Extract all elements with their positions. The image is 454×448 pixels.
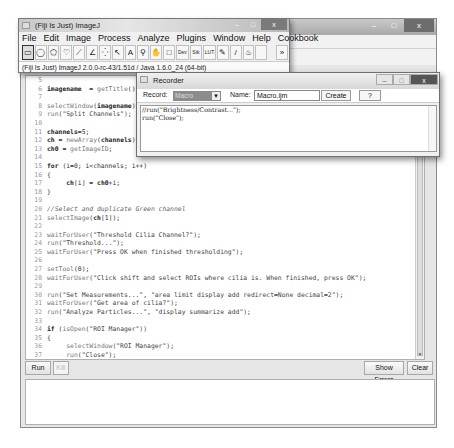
chevron-down-icon[interactable]: ▼ [211, 91, 221, 101]
fiji-main-window: (Fiji Is Just) ImageJ – □ x File Edit Im… [18, 18, 290, 73]
menu-edit[interactable]: Edit [44, 32, 60, 44]
recorder-textarea[interactable]: //run("Brightness/Contrast..."); run("Cl… [140, 105, 437, 152]
code-token: for [47, 162, 59, 170]
minimize-icon[interactable]: – [376, 74, 393, 85]
recorder-controls: Record: Macro ▼ Name: Macro.ijm Create ? [137, 89, 439, 103]
create-button[interactable]: Create [321, 90, 351, 101]
lut-menu-icon[interactable]: LUT [203, 45, 216, 60]
hand-tool-icon[interactable]: ✋ [150, 45, 162, 60]
code-line: 28waitForUser("Click shift and select RO… [26, 274, 424, 283]
minimize-icon[interactable]: – [229, 19, 245, 30]
code-token: run [47, 308, 59, 316]
code-token: ch [66, 179, 74, 187]
output-console[interactable] [25, 379, 435, 425]
recorder-titlebar[interactable]: Recorder – □ x [137, 73, 439, 89]
code-line: 24run("Threshold..."); [26, 239, 424, 248]
maximize-icon[interactable]: □ [245, 19, 261, 30]
code-token: if [47, 325, 55, 333]
line-number: 6 [26, 85, 42, 94]
show-errors-button[interactable]: Show Errors [364, 361, 404, 375]
code-token: ("Split Channels"); [59, 110, 132, 118]
menu-file[interactable]: File [22, 32, 37, 44]
line-number: 18 [26, 188, 42, 197]
code-token: ("Set Measurements...", "area limit disp… [59, 291, 344, 299]
maximize-icon[interactable]: □ [393, 74, 410, 85]
code-token: ("Close"); [78, 351, 116, 359]
menu-image[interactable]: Image [66, 32, 91, 44]
clear-button[interactable]: Clear [407, 361, 433, 375]
magnifier-tool-icon[interactable]: ⚲ [137, 45, 149, 60]
wand-tool-icon[interactable]: ↖ [112, 45, 124, 60]
help-button[interactable]: ? [359, 90, 381, 101]
pencil-tool-icon[interactable]: ✎ [217, 45, 229, 60]
recorder-line: //run("Brightness/Contrast..."); [141, 106, 436, 114]
code-token: { [47, 334, 51, 342]
fiji-title: (Fiji Is Just) ImageJ [35, 21, 100, 30]
line-number: 26 [26, 256, 42, 265]
code-token: ("Threshold..."); [59, 239, 124, 247]
code-line: 15for (i=0; i<channels; i++) [26, 162, 424, 171]
code-line: 21selectImage(ch[1]); [26, 214, 424, 223]
code-token: = [82, 85, 97, 93]
polygon-tool-icon[interactable]: ⬠ [48, 45, 60, 60]
developer-menu-icon[interactable]: Dev [176, 45, 189, 60]
more-tools-icon[interactable]: » [276, 45, 288, 60]
maximize-icon[interactable]: □ [384, 19, 404, 32]
code-line: 30run("Set Measurements...", "area limit… [26, 291, 424, 300]
flood-fill-tool-icon[interactable]: ♨ [243, 45, 255, 60]
menu-analyze[interactable]: Analyze [138, 32, 170, 44]
line-number: 28 [26, 274, 42, 283]
scrollbar-thumb[interactable] [417, 126, 423, 356]
run-button[interactable]: Run [25, 361, 51, 375]
code-token: = [59, 145, 71, 153]
code-token: ; [109, 145, 113, 153]
code-line: 36 selectWindow("ROI Manager"); [26, 342, 424, 351]
brush-tool-icon[interactable]: / [230, 45, 242, 60]
code-token: [i] = [74, 179, 97, 187]
line-number: 32 [26, 308, 42, 317]
recorder-scrollbar[interactable] [428, 106, 436, 151]
point-tool-icon[interactable]: ⁛ [99, 45, 111, 60]
line-number: 5 [26, 76, 42, 85]
color-picker-tool-icon[interactable]: □ [163, 45, 175, 60]
close-icon[interactable]: x [410, 74, 438, 85]
menu-process[interactable]: Process [98, 32, 131, 44]
oval-tool-icon[interactable]: ◯ [35, 45, 47, 60]
line-number: 8 [26, 102, 42, 111]
code-line: 25waitForUser("Press OK when finished th… [26, 248, 424, 257]
line-number: 16 [26, 171, 42, 180]
stacks-menu-icon[interactable]: Stk [190, 45, 203, 60]
line-tool-icon[interactable]: ⟋ [73, 45, 85, 60]
text-tool-icon[interactable]: A [125, 45, 137, 60]
line-number: 21 [26, 214, 42, 223]
minimize-icon[interactable]: – [364, 19, 384, 32]
menu-help[interactable]: Help [252, 32, 271, 44]
close-icon[interactable]: x [261, 19, 287, 30]
close-icon[interactable]: x [404, 19, 434, 32]
macro-name-input[interactable]: Macro.ijm [254, 90, 320, 101]
code-token: ("Press OK when finished thresholding"); [89, 248, 243, 256]
recorder-title: Recorder [153, 76, 184, 85]
line-number: 19 [26, 196, 42, 205]
menu-window[interactable]: Window [213, 32, 245, 44]
record-mode-select[interactable]: Macro [173, 91, 211, 101]
menu-cookbook[interactable]: Cookbook [278, 32, 319, 44]
code-token: waitForUser [47, 299, 89, 307]
kill-button[interactable]: Kill [53, 361, 69, 375]
line-number: 14 [26, 153, 42, 162]
fiji-titlebar[interactable]: (Fiji Is Just) ImageJ – □ x [19, 19, 289, 32]
empty-slot-icon[interactable] [255, 45, 267, 60]
line-number: 35 [26, 334, 42, 343]
fiji-menubar: File Edit Image Process Analyze Plugins … [19, 32, 289, 44]
angle-tool-icon[interactable]: ∠ [86, 45, 98, 60]
code-token: ("ROI Manager")) [86, 325, 148, 333]
code-token: run [47, 110, 59, 118]
rectangle-tool-icon[interactable]: ▭ [22, 45, 34, 60]
code-line: 27setTool(0); [26, 265, 424, 274]
code-token: selectWindow [66, 342, 112, 350]
line-number: 30 [26, 291, 42, 300]
code-token: { [47, 171, 51, 179]
freehand-tool-icon[interactable]: ♡ [60, 45, 72, 60]
scroll-down-icon[interactable]: ▼ [416, 351, 424, 359]
menu-plugins[interactable]: Plugins [177, 32, 207, 44]
